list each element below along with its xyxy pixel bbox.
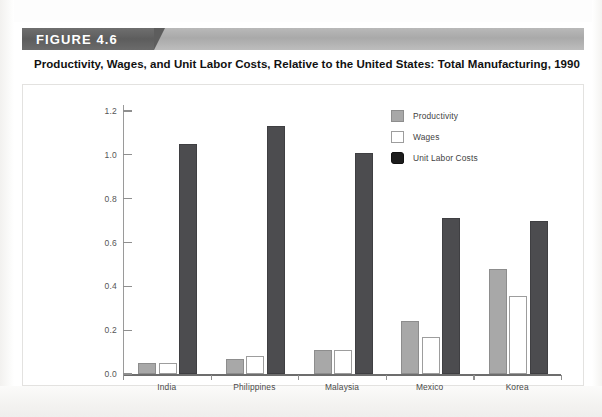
category-label-korea: Korea xyxy=(506,382,529,392)
category-label-mexico: Mexico xyxy=(416,382,443,392)
figure-number-label: FIGURE 4.6 xyxy=(22,32,118,47)
y-axis-tick-label: 0.4 xyxy=(85,281,117,291)
y-axis-line xyxy=(123,105,124,375)
page-right-edge xyxy=(592,0,602,417)
y-axis-tick xyxy=(123,110,132,111)
x-axis-tick xyxy=(298,375,299,380)
y-axis-tick xyxy=(123,242,132,243)
bar-ulc-mexico xyxy=(442,218,460,374)
chart-legend: Productivity Wages Unit Labor Costs xyxy=(391,109,478,164)
bar-productivity-mexico xyxy=(401,321,419,374)
bar-wages-malaysia xyxy=(334,350,352,374)
figure-banner-tab: FIGURE 4.6 xyxy=(22,28,154,50)
bar-wages-mexico xyxy=(422,337,440,374)
bar-productivity-malaysia xyxy=(314,350,332,374)
bar-ulc-korea xyxy=(530,221,548,374)
legend-swatch-unit-labor-costs-icon xyxy=(391,152,404,164)
y-axis-tick xyxy=(123,154,132,155)
legend-label-productivity: Productivity xyxy=(413,111,458,121)
bar-ulc-malaysia xyxy=(355,153,373,374)
y-axis-tick-label: 1.0 xyxy=(85,150,117,160)
y-axis-tick xyxy=(123,373,132,374)
y-axis-tick xyxy=(123,198,132,199)
y-axis-tick-label: 0.8 xyxy=(85,194,117,204)
bar-wages-philippines xyxy=(246,356,264,374)
plot-area: 0.00.20.40.60.81.01.2 IndiaPhilippinesMa… xyxy=(23,85,585,387)
scanned-page: FIGURE 4.6 Productivity, Wages, and Unit… xyxy=(0,0,602,417)
bar-ulc-india xyxy=(179,144,197,374)
x-axis-tick xyxy=(123,375,124,380)
y-axis-tick xyxy=(123,330,132,331)
x-axis-tick xyxy=(386,375,387,380)
bar-ulc-philippines xyxy=(267,126,285,374)
figure-title: Productivity, Wages, and Unit Labor Cost… xyxy=(34,58,582,70)
x-axis-tick xyxy=(211,375,212,380)
x-axis-tick xyxy=(473,375,474,380)
figure-banner: FIGURE 4.6 xyxy=(22,28,584,50)
legend-label-unit-labor-costs: Unit Labor Costs xyxy=(413,153,478,163)
page-left-edge xyxy=(0,0,14,417)
category-label-malaysia: Malaysia xyxy=(325,382,359,392)
chart-panel: 0.00.20.40.60.81.01.2 IndiaPhilippinesMa… xyxy=(22,84,584,386)
y-axis-tick-label: 0.6 xyxy=(85,238,117,248)
legend-swatch-wages-icon xyxy=(391,131,404,143)
legend-item-wages: Wages xyxy=(391,130,478,143)
legend-item-unit-labor-costs: Unit Labor Costs xyxy=(391,151,478,164)
y-axis-tick-label: 0.0 xyxy=(85,369,117,379)
category-label-india: India xyxy=(157,382,176,392)
bar-wages-india xyxy=(159,363,177,374)
y-axis-tick-label: 0.2 xyxy=(85,325,117,335)
bar-productivity-korea xyxy=(489,269,507,374)
x-axis-line xyxy=(123,374,561,376)
x-axis-tick xyxy=(561,375,562,380)
legend-swatch-productivity-icon xyxy=(391,110,404,122)
bar-productivity-philippines xyxy=(226,359,244,374)
legend-item-productivity: Productivity xyxy=(391,109,478,122)
y-axis-tick xyxy=(123,286,132,287)
bar-wages-korea xyxy=(509,296,527,374)
bar-productivity-india xyxy=(138,363,156,374)
category-label-philippines: Philippines xyxy=(233,382,275,392)
legend-label-wages: Wages xyxy=(413,132,440,142)
y-axis-tick-label: 1.2 xyxy=(85,106,117,116)
page-top-edge xyxy=(0,0,602,22)
